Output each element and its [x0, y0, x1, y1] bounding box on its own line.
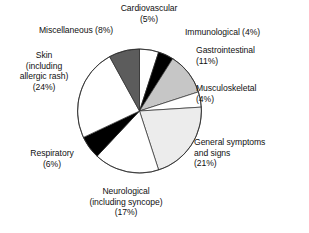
slice-label-skin: Skin (including allergic rash) (24%) — [2, 50, 86, 92]
slice-label-line: and signs — [194, 148, 306, 159]
slice-label-line: (11%) — [196, 56, 302, 67]
slice-label-line: (6%) — [14, 159, 90, 170]
slice-label-line: Cardiovascular — [106, 3, 192, 14]
slice-label-line: (24%) — [2, 82, 86, 93]
slice-label-miscellaneous: Miscellaneous (8%) — [24, 25, 128, 36]
slice-label-musculoskeletal: Musculoskeletal (4%) — [196, 83, 306, 104]
slice-label-line: Neurological — [58, 186, 194, 197]
slice-label-line: (including — [2, 61, 86, 72]
slice-label-line: (21%) — [194, 158, 306, 169]
slice-label-line: allergic rash) — [2, 71, 86, 82]
slice-label-line: (5%) — [106, 14, 192, 25]
slice-label-respiratory: Respiratory (6%) — [14, 148, 90, 169]
slice-label-line: General symptoms — [194, 137, 306, 148]
slice-label-line: (including syncope) — [58, 197, 194, 208]
slice-label-line: Musculoskeletal — [196, 83, 306, 94]
slice-label-line: (4%) — [196, 94, 306, 105]
slice-label-line: Gastrointestinal — [196, 45, 302, 56]
slice-label-gastrointestinal: Gastrointestinal (11%) — [196, 45, 302, 66]
slice-label-immunological: Immunological (4%) — [185, 27, 307, 38]
slice-label-cardiovascular: Cardiovascular (5%) — [106, 3, 192, 24]
slice-label-neurological: Neurological (including syncope) (17%) — [58, 186, 194, 218]
pie-slice-group — [77, 49, 201, 173]
pie-chart-figure: Cardiovascular (5%) Miscellaneous (8%) I… — [0, 0, 309, 233]
slice-label-line: Immunological (4%) — [185, 27, 307, 38]
slice-label-line: Skin — [2, 50, 86, 61]
slice-label-line: Miscellaneous (8%) — [24, 25, 128, 36]
slice-label-general-symptoms: General symptoms and signs (21%) — [194, 137, 306, 169]
slice-label-line: (17%) — [58, 207, 194, 218]
slice-label-line: Respiratory — [14, 148, 90, 159]
